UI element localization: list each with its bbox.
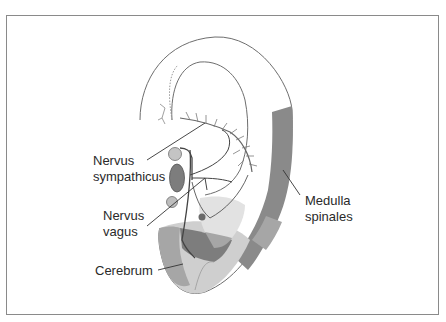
label-line: Nervus <box>103 208 144 224</box>
ear-diagram <box>0 0 446 322</box>
label-nervus-vagus: Nervus vagus <box>103 208 144 240</box>
ganglion-middle <box>170 164 185 192</box>
ganglion-upper <box>169 148 182 161</box>
label-line: spinales <box>305 209 353 225</box>
label-medulla-spinales: Medulla spinales <box>305 193 353 225</box>
label-line: Nervus <box>93 153 165 169</box>
label-cerebrum: Cerebrum <box>95 263 153 279</box>
ganglion-small <box>199 214 206 221</box>
label-line: sympathicus <box>93 169 165 185</box>
label-line: vagus <box>103 224 144 240</box>
label-nervus-sympathicus: Nervus sympathicus <box>93 153 165 185</box>
label-line: Medulla <box>305 193 353 209</box>
